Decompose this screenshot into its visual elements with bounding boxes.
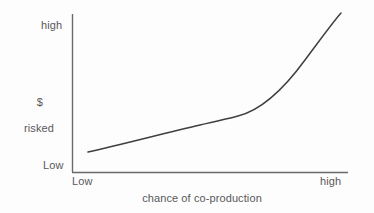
y-axis-title-line-1: $ [37, 96, 43, 108]
x-axis-tick-label-low: Low [72, 175, 92, 188]
chart-figure: high $ risked Low Low high chance of co-… [0, 0, 374, 213]
y-axis-title: $ risked [24, 83, 54, 161]
x-axis-tick-label-high: high [320, 175, 341, 188]
y-axis-title-line-2: risked [24, 122, 54, 135]
y-axis-tick-label-high: high [41, 19, 62, 32]
y-axis-tick-label-low: Low [43, 159, 63, 172]
data-curve [88, 13, 341, 152]
x-axis-title: chance of co-production [0, 192, 374, 205]
